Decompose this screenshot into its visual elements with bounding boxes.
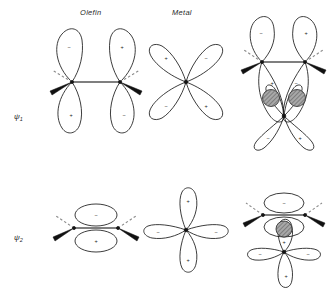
psi2-complex-metal-right-sign: −: [306, 251, 309, 257]
psi2-complex-group: − + − − +: [243, 193, 325, 287]
psi1-olefin-left-bottom-sign: +: [69, 112, 72, 118]
psi1-complex-metal-lower-right-lobe: [284, 116, 314, 150]
psi1-metal-upper-right-lobe: [186, 44, 223, 82]
psi2-olefin-group: − +: [53, 204, 139, 252]
psi2-metal-group: + + − −: [144, 188, 228, 272]
psi1-complex-left-carbon-atom: [261, 61, 264, 64]
psi1-olefin-right-bottom-sign: −: [122, 112, 125, 118]
psi1-complex-left-lower-sign: +: [270, 80, 273, 86]
psi1-complex-metal-lower-right-sign: +: [298, 135, 301, 141]
psi1-complex-left-top-lobe: [250, 17, 274, 62]
psi1-metal-lower-right-sign: +: [204, 103, 207, 109]
psi2-complex-left-wedge-bond: [243, 215, 263, 227]
psi2-metal-bottom-lobe: [180, 230, 197, 272]
psi1-metal-center-atom: [184, 80, 188, 84]
psi2-metal-top-sign: +: [186, 198, 189, 204]
psi2-complex-metal-bottom-sign: +: [284, 273, 287, 279]
psi1-metal-lower-left-lobe: [149, 82, 186, 120]
psi2-olefin-right-hash-bond: [118, 216, 136, 228]
psi1-olefin-left-top-lobe: [57, 29, 83, 82]
psi2-metal-top-lobe: [180, 188, 197, 230]
psi1-metal-upper-right-sign: −: [204, 55, 207, 61]
psi1-complex-right-hash-bond: [305, 50, 323, 62]
psi2-metal-left-lobe: [144, 225, 186, 239]
psi1-olefin-left-wedge-bond: [50, 82, 72, 95]
psi1-complex-metal-lower-left-lobe: [254, 116, 284, 150]
psi1-olefin-left-hash-bond: [52, 70, 72, 82]
psi1-olefin-left-carbon-atom: [71, 81, 74, 84]
psi1-olefin-right-wedge-bond: [120, 82, 142, 95]
psi1-complex-left-wedge-bond: [241, 62, 262, 74]
psi2-metal-right-sign: −: [214, 229, 217, 235]
psi2-complex-metal-left-sign: −: [258, 251, 261, 257]
psi1-complex-right-carbon-atom: [304, 61, 307, 64]
psi1-metal-lower-left-sign: −: [164, 103, 167, 109]
psi1-olefin-right-top-sign: +: [120, 44, 123, 50]
psi1-complex-group: − + + − − +: [241, 17, 326, 151]
psi2-complex-metal-left-lobe: [248, 248, 284, 260]
psi1-complex-right-top-sign: +: [304, 30, 307, 36]
psi1-olefin-right-bottom-lobe: [110, 82, 134, 133]
psi1-complex-overlap-region-right: [289, 90, 306, 107]
orbital-diagram-figure: − + + − + − − +: [0, 0, 330, 292]
psi2-complex-left-carbon-atom: [262, 214, 265, 217]
psi2-complex-overlap-region: [276, 221, 292, 237]
psi2-complex-right-hash-bond: [305, 203, 322, 215]
psi2-metal-bottom-sign: +: [186, 257, 189, 263]
psi2-complex-right-carbon-atom: [304, 214, 307, 217]
psi1-metal-group: + − − +: [149, 44, 222, 119]
psi1-olefin-group: − + + −: [50, 29, 142, 133]
psi1-complex-right-lower-sign: −: [294, 80, 297, 86]
psi2-complex-olefin-bottom-sign: +: [282, 239, 285, 245]
psi2-metal-center-atom: [184, 228, 188, 232]
psi2-olefin-left-hash-bond: [56, 216, 74, 228]
psi2-metal-right-lobe: [186, 225, 228, 239]
psi1-complex-left-top-sign: −: [259, 30, 262, 36]
psi2-olefin-right-wedge-bond: [118, 228, 139, 241]
psi1-metal-upper-left-lobe: [149, 44, 186, 82]
psi2-complex-olefin-top-sign: −: [282, 200, 285, 206]
psi2-metal-left-sign: −: [156, 229, 159, 235]
psi1-complex-right-wedge-bond: [305, 62, 326, 74]
psi1-complex-right-top-lobe: [293, 17, 317, 62]
psi2-olefin-bottom-sign: +: [94, 238, 97, 244]
psi1-complex-overlap-region-left: [263, 90, 280, 107]
psi2-olefin-left-wedge-bond: [53, 228, 74, 241]
psi1-metal-upper-left-sign: +: [164, 55, 167, 61]
psi1-olefin-left-top-sign: −: [67, 44, 70, 50]
psi2-olefin-right-carbon-atom: [117, 227, 120, 230]
psi1-olefin-right-hash-bond: [120, 70, 140, 82]
psi1-metal-lower-right-lobe: [186, 82, 223, 120]
psi1-olefin-left-bottom-lobe: [58, 82, 82, 133]
psi2-complex-left-hash-bond: [246, 203, 263, 215]
psi1-olefin-right-top-lobe: [109, 29, 135, 82]
psi1-complex-left-hash-bond: [244, 50, 262, 62]
psi2-complex-right-wedge-bond: [305, 215, 325, 227]
psi1-complex-metal-center-atom: [282, 114, 286, 118]
psi2-complex-metal-bottom-lobe: [278, 252, 293, 287]
psi2-olefin-top-sign: −: [94, 212, 97, 218]
psi2-complex-metal-center-atom: [282, 250, 286, 254]
psi1-olefin-right-carbon-atom: [119, 81, 122, 84]
psi2-complex-metal-right-lobe: [284, 248, 320, 260]
psi1-complex-metal-lower-left-sign: −: [266, 135, 269, 141]
psi2-olefin-left-carbon-atom: [73, 227, 76, 230]
